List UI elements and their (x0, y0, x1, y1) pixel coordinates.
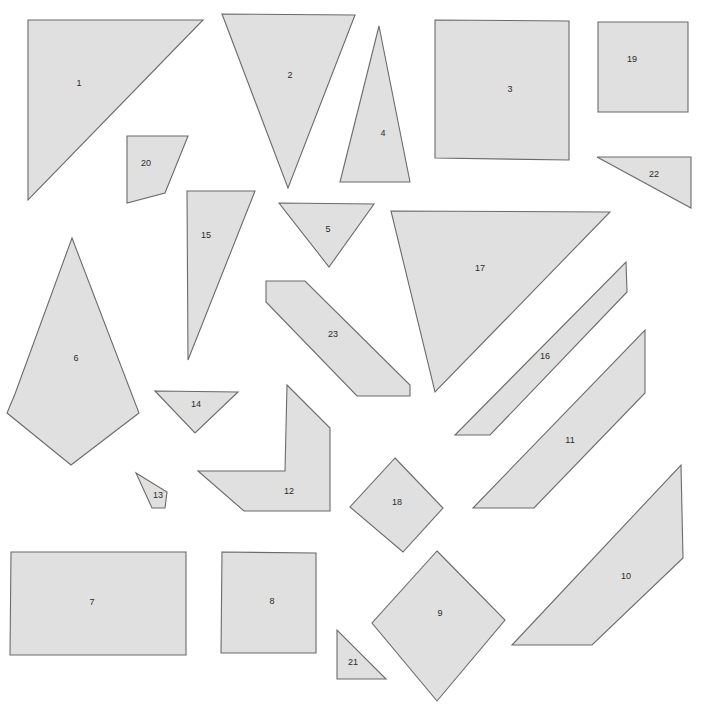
shape-14[interactable]: 14 (155, 391, 238, 433)
shape-outline-19[interactable] (598, 22, 688, 112)
shape-13[interactable]: 13 (136, 473, 167, 508)
shape-17[interactable]: 17 (391, 211, 610, 392)
shape-outline-4[interactable] (340, 26, 410, 182)
shape-outline-13[interactable] (136, 473, 167, 508)
shape-outline-2[interactable] (222, 14, 355, 188)
shape-canvas: 1234567891011121314151617181920212223 (0, 0, 702, 707)
shape-20[interactable]: 20 (127, 136, 188, 203)
shape-9[interactable]: 9 (372, 551, 505, 701)
shape-outline-18[interactable] (350, 458, 443, 552)
shape-outline-17[interactable] (391, 211, 610, 392)
shape-19[interactable]: 19 (598, 22, 688, 112)
shape-outline-20[interactable] (127, 136, 188, 203)
shape-6[interactable]: 6 (7, 238, 139, 465)
shape-outline-1[interactable] (28, 20, 203, 200)
shape-outline-6[interactable] (7, 238, 139, 465)
shape-outline-8[interactable] (221, 552, 316, 653)
shape-7[interactable]: 7 (10, 552, 186, 655)
shape-21[interactable]: 21 (337, 630, 386, 679)
shape-outline-5[interactable] (279, 203, 374, 267)
shape-3[interactable]: 3 (435, 20, 569, 160)
shape-1[interactable]: 1 (28, 20, 203, 200)
shape-5[interactable]: 5 (279, 203, 374, 267)
shape-22[interactable]: 22 (597, 157, 691, 208)
shape-2[interactable]: 2 (222, 14, 355, 188)
shape-outline-14[interactable] (155, 391, 238, 433)
shape-outline-9[interactable] (372, 551, 505, 701)
shape-15[interactable]: 15 (187, 191, 255, 360)
shape-23[interactable]: 23 (266, 281, 410, 396)
shape-outline-21[interactable] (337, 630, 386, 679)
shapes-figure: 1234567891011121314151617181920212223 (0, 0, 702, 707)
shape-group: 1234567891011121314151617181920212223 (7, 14, 691, 701)
shape-outline-15[interactable] (187, 191, 255, 360)
shape-outline-3[interactable] (435, 20, 569, 160)
shape-outline-22[interactable] (597, 157, 691, 208)
shape-4[interactable]: 4 (340, 26, 410, 182)
shape-18[interactable]: 18 (350, 458, 443, 552)
shape-outline-23[interactable] (266, 281, 410, 396)
shape-8[interactable]: 8 (221, 552, 316, 653)
shape-outline-7[interactable] (10, 552, 186, 655)
